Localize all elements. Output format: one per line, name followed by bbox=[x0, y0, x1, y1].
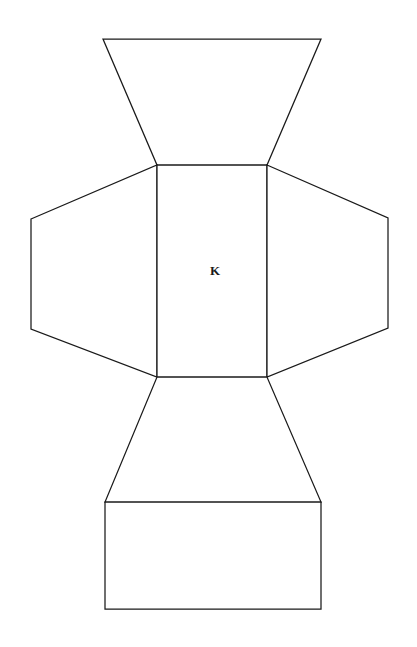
figure-canvas: K bbox=[0, 0, 417, 647]
left-trapezoid-face bbox=[31, 165, 157, 377]
right-trapezoid-face bbox=[267, 165, 388, 377]
bottom-trapezoid-face bbox=[105, 377, 321, 502]
bottom-rectangle-face bbox=[105, 502, 321, 609]
net-diagram: K bbox=[0, 0, 417, 647]
top-trapezoid-face bbox=[103, 39, 321, 165]
face-label-k: K bbox=[210, 263, 221, 278]
